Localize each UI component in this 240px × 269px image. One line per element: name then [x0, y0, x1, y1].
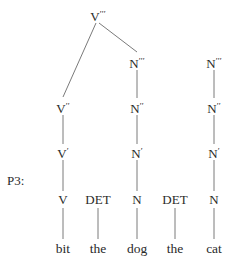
node-n-bar1-object: N′: [131, 144, 142, 161]
node-n-object: N: [132, 193, 141, 207]
node-n-bar3-object: N′′′: [129, 54, 144, 71]
tree-edges: [0, 0, 240, 269]
node-v: V: [58, 193, 67, 207]
diagram-label: P3:: [7, 173, 24, 189]
node-n-free: N: [209, 193, 218, 207]
word-the-2: the: [167, 242, 184, 256]
node-v-bar1: V′: [57, 144, 68, 161]
word-bit: bit: [56, 242, 70, 256]
node-n-bar1-free: N′: [208, 144, 219, 161]
syntax-tree-diagram: P3: V′′′ N′′′ N′′′ V′′ N′′ N′′ V′ N′ N′ …: [0, 0, 240, 269]
node-n-bar2-free: N′′: [207, 99, 220, 116]
node-v-bar2: V′′: [56, 99, 69, 116]
node-n-bar3-free: N′′′: [206, 54, 221, 71]
word-dog: dog: [127, 242, 147, 256]
word-the-1: the: [90, 242, 107, 256]
node-det-1: DET: [85, 193, 110, 207]
node-det-2: DET: [162, 193, 187, 207]
tree-edge: [99, 23, 137, 52]
tree-edge: [63, 23, 96, 97]
node-n-bar2-object: N′′: [130, 99, 143, 116]
word-cat: cat: [206, 242, 222, 256]
node-v-bar3: V′′′: [90, 7, 105, 24]
